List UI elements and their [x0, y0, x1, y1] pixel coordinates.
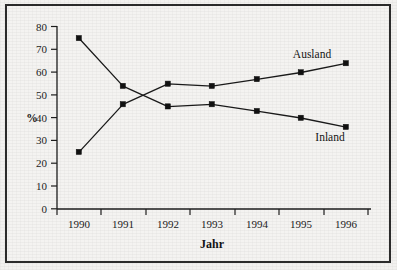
series-label-ausland: Ausland [293, 48, 332, 60]
series-label-inland: Inland [315, 131, 345, 143]
y-axis-title: % [26, 112, 38, 124]
x-tick-label-1994: 1994 [246, 218, 269, 230]
y-tick-label-10: 10 [36, 180, 48, 192]
y-tick-label-30: 30 [36, 134, 48, 146]
x-axis-tick-labels: 1990 1991 1992 1993 1994 1995 1996 [68, 218, 358, 230]
y-tick-label-70: 70 [36, 43, 48, 55]
y-tick-label-20: 20 [36, 157, 48, 169]
series-markers-ausland [76, 61, 348, 155]
x-tick-label-1995: 1995 [290, 218, 313, 230]
x-tick-label-1992: 1992 [157, 218, 179, 230]
line-chart: 80 70 60 50 40 30 20 10 0 % 1990 1991 [0, 0, 397, 270]
chart-page: 80 70 60 50 40 30 20 10 0 % 1990 1991 [0, 0, 397, 270]
y-tick-label-60: 60 [36, 66, 48, 78]
y-tick-label-50: 50 [36, 89, 48, 101]
x-tick-label-1991: 1991 [112, 218, 134, 230]
x-tick-label-1990: 1990 [68, 218, 91, 230]
x-tick-label-1996: 1996 [335, 218, 358, 230]
y-tick-label-0: 0 [42, 203, 48, 215]
x-axis-title: Jahr [200, 237, 225, 251]
y-axis-ticks [51, 27, 57, 209]
y-tick-label-80: 80 [36, 21, 48, 33]
x-axis-ticks [57, 209, 368, 215]
x-tick-label-1993: 1993 [201, 218, 224, 230]
series-line-ausland [79, 63, 346, 152]
